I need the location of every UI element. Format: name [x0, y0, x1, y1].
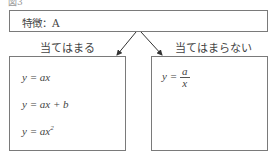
- fraction-denominator: x: [180, 78, 190, 89]
- equation-inverse-proportional: y =ax: [162, 66, 190, 89]
- branch-label-yes: 当てはまる: [40, 39, 95, 55]
- branch-label-no: 当てはまらない: [175, 39, 252, 55]
- arrow-left-icon: [117, 32, 136, 55]
- applies-box: y = ax y = ax + b y = ax2: [9, 56, 126, 151]
- fraction: ax: [180, 66, 190, 89]
- arrow-right-icon: [141, 32, 162, 55]
- equation-quadratic: y = ax2: [22, 124, 54, 137]
- equation-lhs: y =: [162, 70, 177, 82]
- not-applies-box: y =ax: [151, 56, 268, 151]
- equation-quadratic-exponent: 2: [50, 124, 54, 132]
- equation-linear: y = ax + b: [22, 98, 69, 110]
- equation-quadratic-base: y = ax: [22, 125, 50, 137]
- equation-linear-proportional: y = ax: [22, 71, 50, 83]
